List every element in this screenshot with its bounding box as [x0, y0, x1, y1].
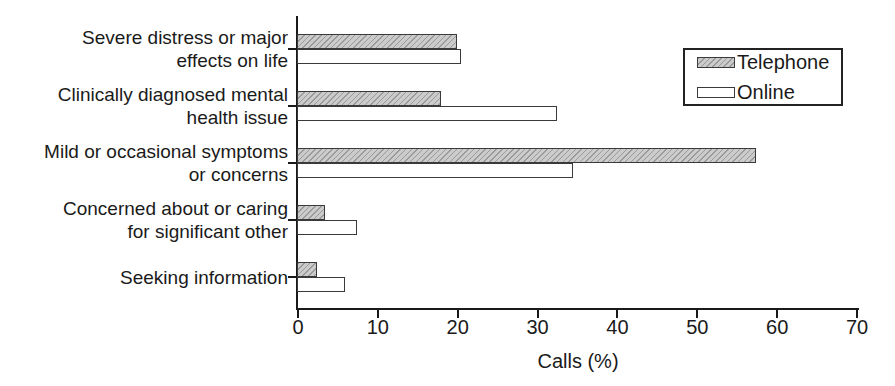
- category-label: Concerned about or caringfor significant…: [63, 197, 288, 243]
- bar-telephone-2: [297, 148, 756, 163]
- category-label-line: or concerns: [44, 163, 288, 186]
- bar-telephone-3: [297, 205, 325, 220]
- bar-telephone-4: [297, 262, 317, 277]
- category-label-line: health issue: [58, 106, 288, 129]
- x-tick-label: 50: [686, 316, 708, 339]
- bar-online-0: [297, 49, 461, 64]
- category-label: Seeking information: [120, 265, 288, 288]
- y-axis-tick: [288, 48, 296, 50]
- bar-telephone-0: [297, 34, 457, 49]
- x-tick-label: 40: [606, 316, 628, 339]
- y-axis-tick: [288, 105, 296, 107]
- category-label: Mild or occasional symptomsor concerns: [44, 140, 288, 186]
- category-label-line: Severe distress or major: [82, 26, 288, 49]
- bar-telephone-1: [297, 91, 441, 106]
- category-label-line: Mild or occasional symptoms: [44, 140, 288, 163]
- category-label-line: Seeking information: [120, 265, 288, 288]
- bar-online-3: [297, 220, 357, 235]
- category-label-line: Concerned about or caring: [63, 197, 288, 220]
- y-axis-tick: [288, 276, 296, 278]
- y-axis-tick: [288, 162, 296, 164]
- x-tick-label: 0: [292, 316, 303, 339]
- legend-entry-online: Online: [697, 81, 841, 104]
- x-tick-label: 10: [367, 316, 389, 339]
- category-label-line: effects on life: [82, 49, 288, 72]
- legend-label-telephone: Telephone: [737, 51, 829, 74]
- category-label-line: Clinically diagnosed mental: [58, 83, 288, 106]
- legend: TelephoneOnline: [683, 48, 843, 106]
- x-tick-label: 20: [447, 316, 469, 339]
- category-label: Severe distress or majoreffects on life: [82, 26, 288, 72]
- x-tick-label: 60: [766, 316, 788, 339]
- legend-swatch-telephone: [697, 57, 735, 68]
- category-label-line: for significant other: [63, 220, 288, 243]
- bar-online-2: [297, 163, 573, 178]
- y-axis-tick: [288, 219, 296, 221]
- x-tick-label: 70: [846, 316, 868, 339]
- x-tick-label: 30: [526, 316, 548, 339]
- category-label: Clinically diagnosed mentalhealth issue: [58, 83, 288, 129]
- x-axis-line: [296, 308, 859, 310]
- legend-swatch-online: [697, 87, 735, 98]
- bar-online-1: [297, 106, 557, 121]
- legend-label-online: Online: [737, 81, 795, 104]
- x-axis-title: Calls (%): [537, 350, 618, 373]
- bar-chart-figure: Severe distress or majoreffects on lifeC…: [0, 0, 895, 386]
- bar-online-4: [297, 277, 345, 292]
- legend-entry-telephone: Telephone: [697, 51, 841, 74]
